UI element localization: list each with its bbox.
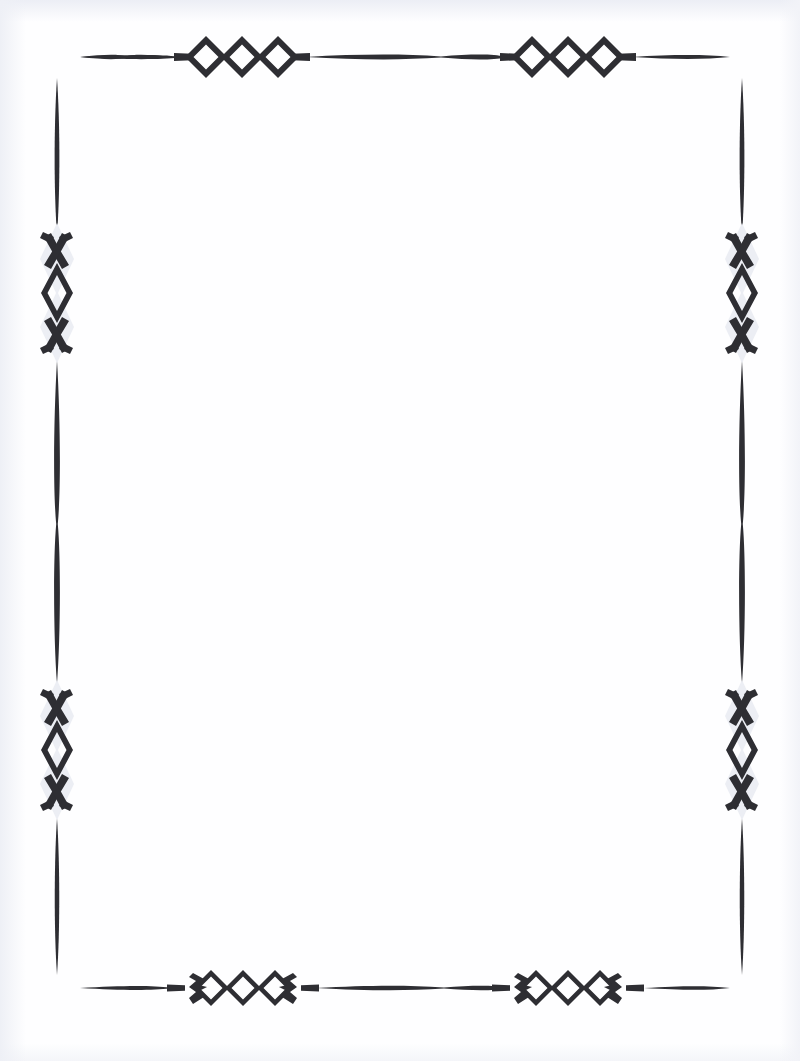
border-rail-left [40,78,74,975]
border-rail-right [725,78,759,975]
page [0,0,800,1061]
ornament-left-upper [40,223,74,363]
ornament-right-lower [725,680,759,820]
blank-content-area[interactable] [80,70,730,990]
ornament-left-lower [40,680,74,820]
ornament-right-upper [725,223,759,363]
